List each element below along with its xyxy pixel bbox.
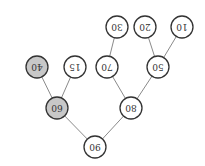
tree-node-60: 60 — [46, 97, 68, 119]
tree-node-20: 20 — [134, 16, 156, 38]
node-label: 15 — [69, 62, 81, 72]
tree-node-50: 50 — [147, 56, 169, 78]
node-label: 40 — [31, 62, 43, 72]
node-label: 30 — [111, 22, 123, 32]
tree-canvas: 90806050701540102030 — [0, 0, 205, 166]
node-label: 70 — [101, 62, 113, 72]
node-label: 80 — [125, 103, 137, 113]
node-label: 60 — [51, 103, 63, 113]
tree-node-15: 15 — [64, 56, 86, 78]
nodes-layer: 90806050701540102030 — [26, 16, 193, 158]
tree-diagram: 90806050701540102030 — [0, 0, 205, 166]
tree-node-30: 30 — [106, 16, 128, 38]
node-label: 50 — [152, 62, 164, 72]
tree-node-10: 10 — [171, 16, 193, 38]
tree-node-40: 40 — [26, 56, 48, 78]
tree-node-90: 90 — [84, 136, 106, 158]
edges-layer — [37, 27, 182, 147]
tree-node-80: 80 — [120, 97, 142, 119]
node-label: 20 — [139, 22, 151, 32]
node-label: 10 — [176, 22, 188, 32]
tree-node-70: 70 — [96, 56, 118, 78]
node-label: 90 — [89, 142, 101, 152]
